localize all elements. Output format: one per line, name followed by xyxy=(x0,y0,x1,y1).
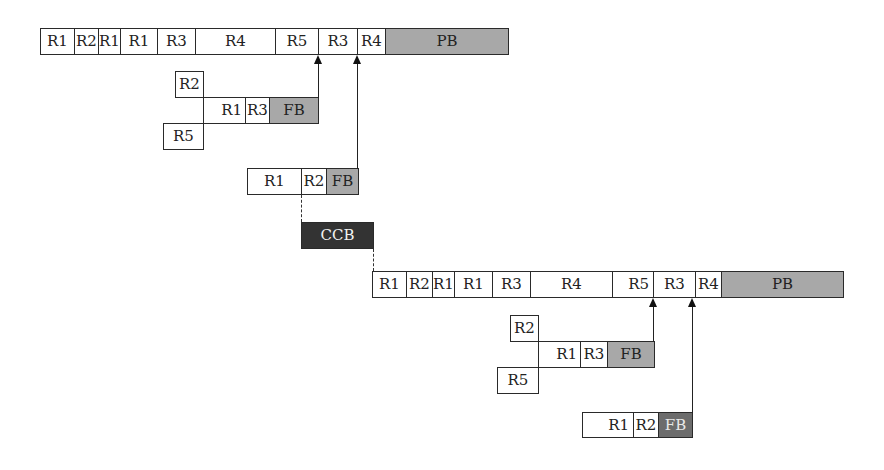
capacity-constraint-buffer: CCB xyxy=(301,222,374,249)
top-project-buffer: PB xyxy=(385,28,509,55)
top-chain-task-r1-c: R1 xyxy=(120,28,158,55)
bottom-chain-task-r3-a: R3 xyxy=(492,271,531,298)
arrow-up-icon xyxy=(688,298,696,307)
bottom-chain-task-r1-a: R1 xyxy=(372,271,407,298)
bottom-chain-task-r3-b: R3 xyxy=(653,271,696,298)
top-chain-task-r4-b: R4 xyxy=(357,28,386,55)
top-chain-task-r1-b: R1 xyxy=(98,28,121,55)
top-chain-task-r5: R5 xyxy=(275,28,319,55)
bottom-project-buffer: PB xyxy=(721,271,844,298)
bottom-feed1-task-r3: R3 xyxy=(580,341,608,368)
bottom-chain-task-r4-a: R4 xyxy=(530,271,613,298)
top-chain-task-r4-a: R4 xyxy=(195,28,276,55)
arrow-up-icon xyxy=(353,55,361,64)
top-chain-task-r1-a: R1 xyxy=(40,28,75,55)
top-feed1-task-r2: R2 xyxy=(175,71,204,98)
top-chain-task-r2: R2 xyxy=(74,28,99,55)
top-chain-task-r3-a: R3 xyxy=(157,28,196,55)
bottom-chain-task-r2: R2 xyxy=(406,271,433,298)
top-feed2-connector xyxy=(357,62,358,169)
bottom-feed1-buffer: FB xyxy=(607,341,655,368)
bottom-chain-task-r1-b: R1 xyxy=(432,271,455,298)
top-feed2-buffer: FB xyxy=(326,168,359,195)
bottom-chain-task-r4-b: R4 xyxy=(695,271,722,298)
top-feed2-task-r2: R2 xyxy=(301,168,327,195)
top-feed1-task-r1: R1 xyxy=(203,97,246,124)
bottom-chain-task-r5: R5 xyxy=(612,271,654,298)
bottom-feed1-connector xyxy=(653,305,654,342)
bottom-feed1-task-r5: R5 xyxy=(497,367,539,394)
arrow-up-icon xyxy=(649,298,657,307)
ccb-dashed-link-out xyxy=(373,249,374,271)
ccb-dashed-link-in xyxy=(301,195,302,222)
bottom-feed2-task-r1: R1 xyxy=(582,412,634,438)
bottom-chain-task-r1-c: R1 xyxy=(454,271,493,298)
bottom-feed1-task-r2: R2 xyxy=(510,315,539,342)
bottom-feed2-buffer: FB xyxy=(658,412,693,438)
bottom-feed1-task-r1: R1 xyxy=(538,341,581,368)
bottom-feed2-task-r2: R2 xyxy=(633,412,659,438)
top-feed2-task-r1: R1 xyxy=(247,168,302,195)
arrow-up-icon xyxy=(314,55,322,64)
top-feed1-connector xyxy=(318,62,319,98)
top-chain-task-r3-b: R3 xyxy=(318,28,358,55)
top-feed1-buffer: FB xyxy=(269,97,319,124)
top-feed1-task-r5: R5 xyxy=(163,123,204,150)
top-feed1-task-r3: R3 xyxy=(245,97,270,124)
bottom-feed2-connector xyxy=(692,305,693,413)
